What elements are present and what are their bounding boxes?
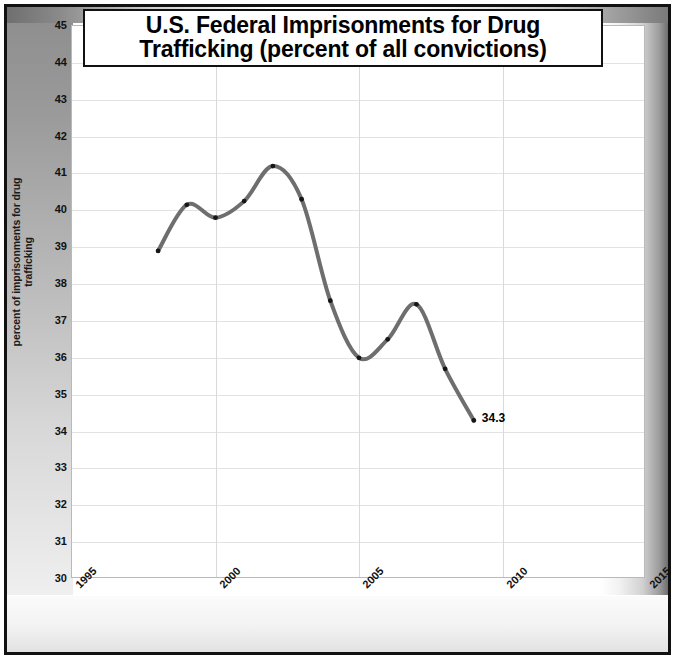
chart-title-line-2: Trafficking (percent of all convictions) (93, 37, 593, 61)
series-path (158, 166, 474, 420)
y-axis-tick-label: 35 (7, 388, 67, 400)
data-point-marker (271, 164, 276, 169)
plot-area (71, 25, 645, 578)
data-point-marker (443, 366, 448, 371)
y-axis-tick-label: 32 (7, 498, 67, 510)
y-axis-tick-label: 34 (7, 425, 67, 437)
series-markers (156, 164, 477, 423)
data-point-marker (184, 202, 189, 207)
data-point-marker (213, 215, 218, 220)
data-point-marker (299, 197, 304, 202)
data-point-marker (328, 298, 333, 303)
chart-title: U.S. Federal Imprisonments for Drug Traf… (83, 9, 603, 67)
y-axis-tick-label: 33 (7, 461, 67, 473)
data-point-marker (357, 355, 362, 360)
chart-title-line-1: U.S. Federal Imprisonments for Drug (93, 13, 593, 37)
y-axis-tick-label: 30 (7, 572, 67, 584)
y-axis-title: percent of imprisonments for drug traffi… (10, 152, 34, 372)
data-series-line (72, 26, 646, 579)
y-axis-tick-label: 44 (7, 56, 67, 68)
end-point-value-label: 34.3 (482, 411, 505, 425)
data-point-marker (385, 337, 390, 342)
scan-shadow-bottom (7, 596, 668, 652)
data-point-marker (242, 199, 247, 204)
figure-frame: 45444342414039383736353433323130 percent… (0, 0, 677, 661)
data-point-marker (156, 248, 161, 253)
y-axis-tick-label: 43 (7, 93, 67, 105)
data-point-marker (471, 418, 476, 423)
y-axis-tick-label: 42 (7, 130, 67, 142)
y-axis-tick-label: 31 (7, 535, 67, 547)
data-point-marker (414, 302, 419, 307)
y-axis-tick-label: 45 (7, 19, 67, 31)
